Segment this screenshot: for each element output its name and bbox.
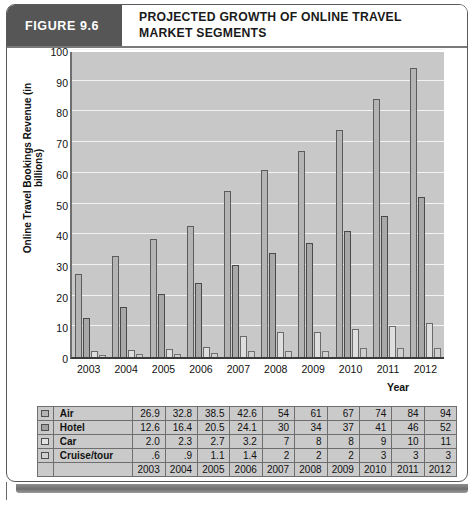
bar-car	[277, 332, 284, 357]
legend-swatch-cell	[38, 449, 54, 463]
page-edge-tick	[6, 482, 7, 500]
data-cell: 12.6	[133, 421, 165, 435]
bar-car	[240, 336, 247, 357]
bar-group	[258, 52, 295, 357]
bar-air	[336, 130, 343, 357]
data-cell: 8	[327, 435, 359, 449]
x-tick-label: 2006	[182, 363, 219, 375]
data-cell: 2.0	[133, 435, 165, 449]
data-cell: 67	[327, 407, 359, 421]
data-cell: 10	[392, 435, 424, 449]
year-cell: 2010	[359, 463, 391, 477]
data-cell: 3.2	[230, 435, 262, 449]
bar-car	[389, 326, 396, 357]
table-row: Hotel12.616.420.524.1303437414652	[38, 421, 457, 435]
bar-hotel	[83, 318, 90, 357]
y-tick-label: 80	[35, 107, 68, 119]
data-cell: 7	[262, 435, 294, 449]
bar-cruise-tour	[248, 351, 255, 357]
y-tick-label: 50	[35, 200, 68, 212]
bar-cruise-tour	[397, 348, 404, 357]
x-axis-ticks: 2003200420052006200720082009201020112012	[70, 363, 444, 375]
bar-group	[221, 52, 258, 357]
bar-group	[109, 52, 146, 357]
y-tick-label: 30	[35, 261, 68, 273]
y-tick-label: 20	[35, 292, 68, 304]
y-axis-ticks: 0102030405060708090100	[35, 49, 68, 359]
bar-car	[314, 332, 321, 357]
bar-car	[426, 323, 433, 357]
bar-air	[112, 256, 119, 357]
bar-air	[187, 226, 194, 357]
bar-group	[295, 52, 332, 357]
x-axis-title: Year	[387, 381, 409, 393]
data-cell: 54	[262, 407, 294, 421]
data-cell: 32.8	[165, 407, 197, 421]
bar-cruise-tour	[211, 353, 218, 357]
data-cell: 74	[359, 407, 391, 421]
year-cell: 2009	[327, 463, 359, 477]
blank-cell	[53, 463, 133, 477]
series-label: Cruise/tour	[53, 449, 133, 463]
data-cell: 2	[262, 449, 294, 463]
legend-swatch-cell	[38, 435, 54, 449]
data-cell: 16.4	[165, 421, 197, 435]
y-tick-label: 0	[35, 353, 68, 365]
x-tick-label: 2009	[294, 363, 331, 375]
y-tick-label: 10	[35, 322, 68, 334]
year-cell: 2008	[295, 463, 327, 477]
bar-hotel	[306, 243, 313, 357]
data-cell: .6	[133, 449, 165, 463]
x-tick-label: 2003	[70, 363, 107, 375]
figure-page: FIGURE 9.6 PROJECTED GROWTH OF ONLINE TR…	[0, 0, 474, 508]
year-cell: 2006	[230, 463, 262, 477]
data-cell: 2.7	[198, 435, 230, 449]
data-table: Air26.932.838.542.6546167748494Hotel12.6…	[37, 406, 457, 477]
bar-cruise-tour	[360, 348, 367, 357]
figure-number-tag: FIGURE 9.6	[7, 5, 122, 46]
legend-swatch-icon	[41, 438, 49, 445]
data-cell: 20.5	[198, 421, 230, 435]
bar-group	[407, 52, 444, 357]
data-cell: 2.3	[165, 435, 197, 449]
bar-hotel	[381, 216, 388, 357]
series-label: Hotel	[53, 421, 133, 435]
data-cell: 3	[392, 449, 424, 463]
legend-swatch-icon	[41, 424, 49, 431]
bar-air	[150, 239, 157, 357]
data-cell: 2	[295, 449, 327, 463]
bar-group	[72, 52, 109, 357]
legend-swatch-icon	[41, 410, 49, 417]
data-cell: 37	[327, 421, 359, 435]
table-row: Air26.932.838.542.6546167748494	[38, 407, 457, 421]
table-row: Cruise/tour.6.91.11.4222333	[38, 449, 457, 463]
data-cell: 26.9	[133, 407, 165, 421]
bar-group	[146, 52, 183, 357]
x-tick-label: 2007	[220, 363, 257, 375]
data-cell: 38.5	[198, 407, 230, 421]
y-tick-label: 70	[35, 138, 68, 150]
bar-air	[261, 170, 268, 357]
plot-region	[70, 52, 444, 359]
x-tick-label: 2005	[145, 363, 182, 375]
bar-air	[75, 274, 82, 357]
year-cell: 2004	[165, 463, 197, 477]
x-tick-label: 2004	[107, 363, 144, 375]
data-cell: 3	[359, 449, 391, 463]
year-cell: 2003	[133, 463, 165, 477]
chart-area: Online Travel Bookings Revenue (in billi…	[7, 49, 467, 397]
blank-cell	[38, 463, 54, 477]
x-tick-label: 2010	[332, 363, 369, 375]
bar-air	[410, 68, 417, 357]
series-label: Car	[53, 435, 133, 449]
legend-swatch-icon	[41, 452, 49, 459]
y-tick-label: 60	[35, 169, 68, 181]
data-cell: 3	[424, 449, 456, 463]
bar-cruise-tour	[174, 354, 181, 357]
bar-hotel	[120, 307, 127, 357]
bar-cruise-tour	[285, 351, 292, 357]
bar-car	[352, 329, 359, 357]
bar-car	[166, 349, 173, 357]
bar-group	[332, 52, 369, 357]
data-cell: 52	[424, 421, 456, 435]
